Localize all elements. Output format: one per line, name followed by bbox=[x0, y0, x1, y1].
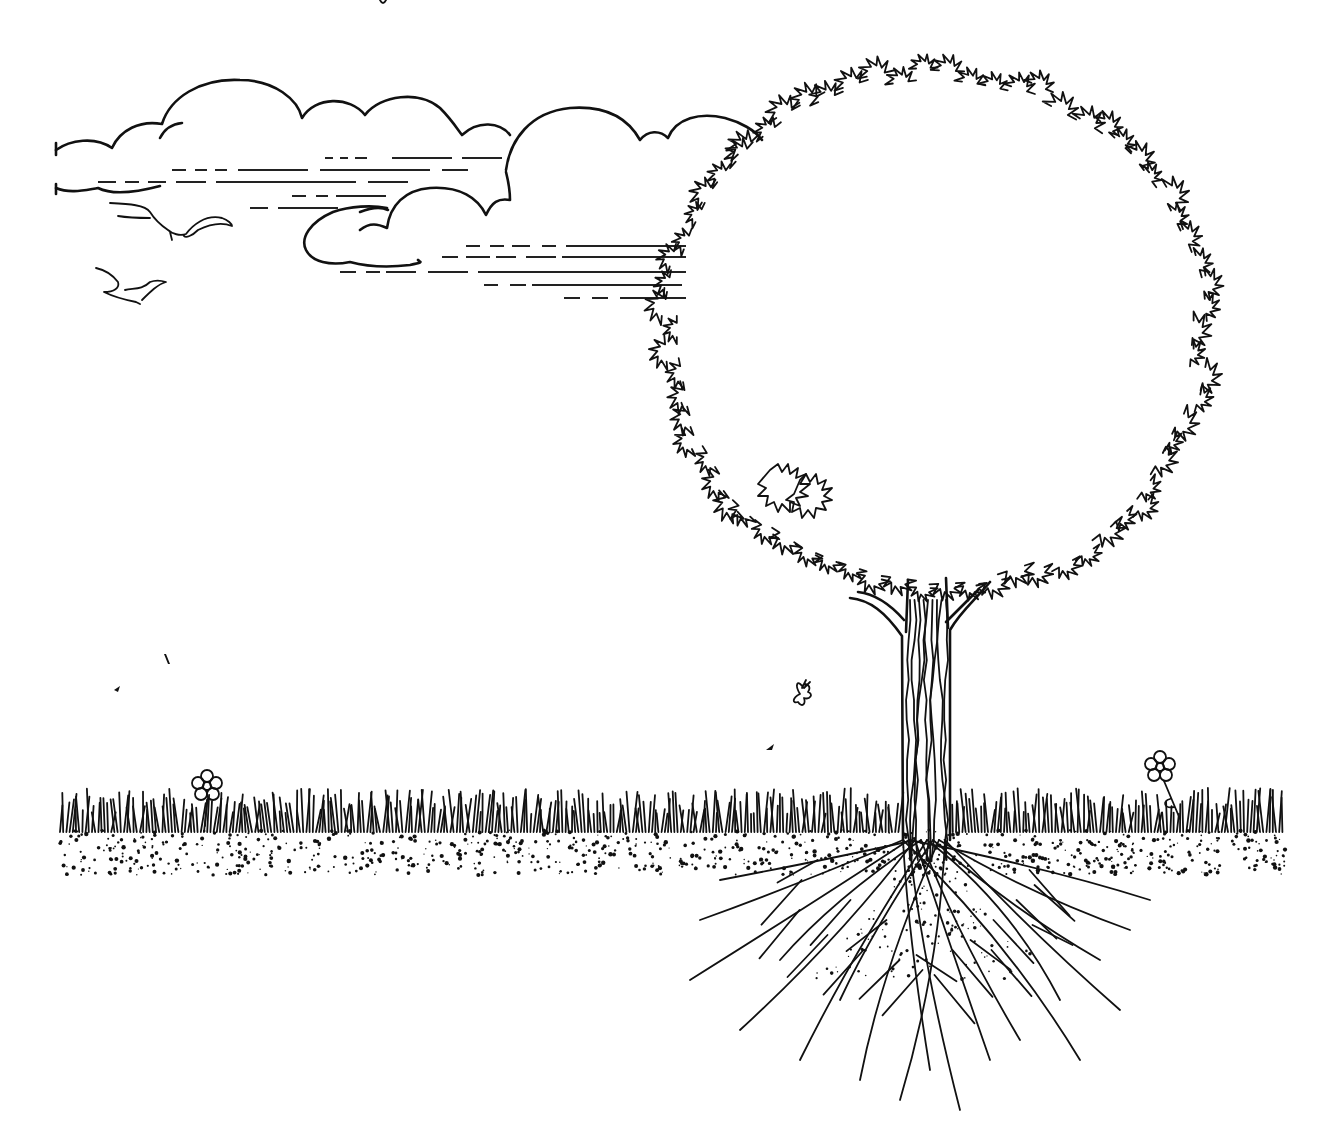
clouds bbox=[56, 80, 762, 267]
birds bbox=[96, 203, 232, 304]
soil bbox=[58, 828, 1287, 980]
cloud-lower-left bbox=[360, 208, 388, 212]
stray-mark bbox=[380, 0, 386, 3]
leaf-1 bbox=[164, 654, 170, 664]
cloud-right bbox=[506, 108, 762, 170]
falling-leaves bbox=[114, 654, 774, 750]
trunk bbox=[850, 578, 990, 860]
cloud-left-inner bbox=[160, 123, 182, 138]
inner-leaf-cluster bbox=[758, 464, 832, 518]
illustration-canvas: Tree with roots illustration bbox=[0, 0, 1344, 1138]
leaf-2 bbox=[114, 686, 120, 692]
tree-crown bbox=[645, 54, 1224, 601]
cloud-stub bbox=[56, 186, 160, 192]
grass bbox=[60, 788, 1282, 832]
roots bbox=[690, 840, 1150, 1110]
bird-2 bbox=[96, 268, 166, 304]
cloud-lower-base bbox=[304, 206, 420, 266]
butterfly bbox=[794, 680, 811, 705]
wind-streaks bbox=[98, 158, 686, 298]
cloud-left bbox=[56, 80, 510, 150]
cloud-lower bbox=[360, 172, 510, 230]
flowers bbox=[192, 751, 1180, 826]
leaf-3 bbox=[766, 744, 774, 750]
bird-1 bbox=[110, 203, 232, 240]
